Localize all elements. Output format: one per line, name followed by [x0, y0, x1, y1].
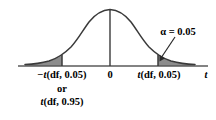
left-critical-value-label: −t(df, 0.05) [38, 70, 87, 81]
left-alternate-value-label: t(df, 0.95) [41, 97, 84, 108]
distribution-plot [0, 0, 216, 120]
right-critical-value-label: t(df, 0.05) [138, 70, 181, 81]
or-connector-label: or [57, 84, 67, 95]
axis-variable-label: t [205, 70, 208, 81]
alpha-arrow-shaft [161, 37, 175, 58]
alpha-annotation-label: α = 0.05 [160, 27, 195, 38]
t-distribution-figure: −t(df, 0.05) or t(df, 0.95) 0 t(df, 0.05… [0, 0, 216, 120]
center-zero-label: 0 [107, 70, 112, 81]
